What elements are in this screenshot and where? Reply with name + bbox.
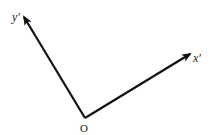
y-prime-axis-arrow xyxy=(24,17,85,118)
y-prime-label: y′ xyxy=(11,10,20,24)
axes-diagram: y′ x′ O xyxy=(0,0,213,135)
x-prime-label: x′ xyxy=(192,51,201,65)
x-prime-axis-arrow xyxy=(85,54,190,118)
origin-label: O xyxy=(80,122,88,134)
